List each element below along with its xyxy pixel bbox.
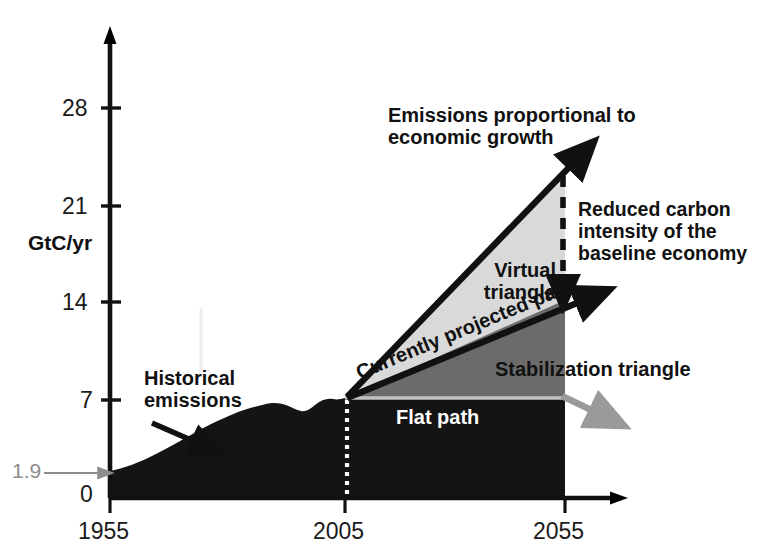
x-tick-label-2005: 2005 — [313, 518, 364, 545]
y-tick-label-21: 21 — [62, 193, 88, 220]
y-axis-label: GtC/yr — [28, 231, 92, 255]
flat-path-gray-arrow — [562, 396, 608, 418]
y-tick-label-14: 14 — [62, 289, 88, 316]
baseline-annotation-1-9: 1.9 — [12, 459, 41, 483]
historical-emissions-area — [110, 398, 565, 498]
y-axis-arrowhead — [104, 26, 117, 44]
x-axis-arrowhead — [610, 492, 628, 505]
stabilization-triangle-label: Stabilization triangle — [495, 358, 691, 380]
reduced-intensity-label: Reduced carbon intensity of the baseline… — [578, 199, 747, 264]
economic-growth-label: Emissions proportional to economic growt… — [388, 104, 636, 149]
x-tick-label-2055: 2055 — [533, 518, 584, 545]
flat-path-label: Flat path — [396, 406, 479, 428]
x-tick-label-1955: 1955 — [78, 518, 129, 545]
chart-graphics — [0, 0, 784, 560]
figure-canvas: 28 21 14 7 0 1.9 GtC/yr 1955 2005 2055 H… — [0, 0, 784, 560]
y-tick-label-0: 0 — [80, 481, 93, 508]
y-tick-label-7: 7 — [80, 387, 93, 414]
y-tick-label-28: 28 — [62, 95, 88, 122]
historical-emissions-label: Historical emissions — [144, 367, 242, 412]
